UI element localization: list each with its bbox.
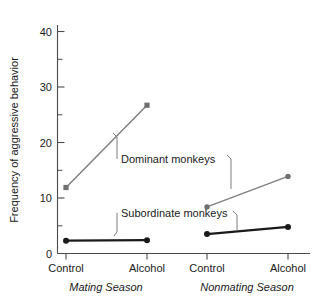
y-tick-label-40: 40 [40, 26, 52, 38]
group-label-mating: Mating Season [69, 281, 142, 293]
dominant-point-mating-control [63, 185, 68, 190]
dominant-point-mating-alcohol [144, 103, 149, 108]
x-label-mating-alcohol: Alcohol [129, 262, 165, 274]
y-tick-label-0: 0 [46, 248, 52, 260]
dominant-annotation-label: Dominant monkeys [121, 153, 216, 165]
subordinate-annotation-label: Subordinate monkeys [121, 207, 228, 219]
aggression-line-chart: 40 30 20 10 0 Frequency of aggressive be… [0, 0, 317, 304]
chart-container: 40 30 20 10 0 Frequency of aggressive be… [0, 0, 317, 304]
y-axis-title: Frequency of aggressive behavior [8, 57, 20, 223]
subordinate-point-nonmating-control [204, 231, 210, 237]
subordinate-point-mating-control [63, 238, 69, 244]
subordinate-point-nonmating-alcohol [285, 224, 291, 230]
x-label-mating-control: Control [48, 262, 83, 274]
dominant-point-nonmating-alcohol [285, 174, 290, 179]
x-label-nonmating-control: Control [189, 262, 224, 274]
y-tick-label-20: 20 [40, 137, 52, 149]
group-label-nonmating: Nonmating Season [200, 281, 294, 293]
x-label-nonmating-alcohol: Alcohol [270, 262, 306, 274]
y-tick-label-30: 30 [40, 81, 52, 93]
subordinate-point-mating-alcohol [144, 237, 150, 243]
subordinate-mating-segment [66, 240, 147, 241]
y-tick-label-10: 10 [40, 192, 52, 204]
